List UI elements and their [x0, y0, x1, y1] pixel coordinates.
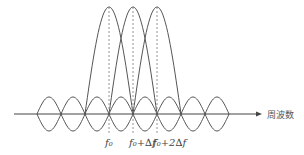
- subcarrier-label: f₀: [104, 137, 113, 148]
- sidelobe-curve: [205, 114, 229, 131]
- sidelobe-curve: [181, 114, 205, 131]
- sidelobe-curve: [37, 97, 61, 114]
- sidelobe-curve: [205, 97, 229, 114]
- sidelobe-curve: [85, 97, 109, 114]
- sidelobe-curve: [181, 97, 205, 114]
- sidelobe-curve: [109, 114, 133, 131]
- subcarrier-labels: f₀f₀+∆ff₀+2∆f: [104, 137, 188, 148]
- axis-arrow-icon: [256, 112, 262, 117]
- sidelobe-curve: [109, 97, 133, 114]
- sidelobe-curve: [85, 114, 109, 131]
- sidelobe-curve: [37, 114, 61, 131]
- sidelobe-curve: [61, 114, 85, 131]
- axis-label: 周波数: [267, 109, 294, 120]
- sidelobe-curve: [157, 97, 181, 114]
- ofdm-spectrum-diagram: 周波数 f₀f₀+∆ff₀+2∆f: [0, 0, 304, 155]
- sidelobe-curve: [133, 114, 157, 131]
- sidelobe-curve: [157, 114, 181, 131]
- sidelobe-curve: [61, 97, 85, 114]
- subcarrier-center-lines: [109, 7, 157, 135]
- subcarrier-label: f₀+2∆f: [152, 137, 188, 148]
- sidelobe-curve: [133, 97, 157, 114]
